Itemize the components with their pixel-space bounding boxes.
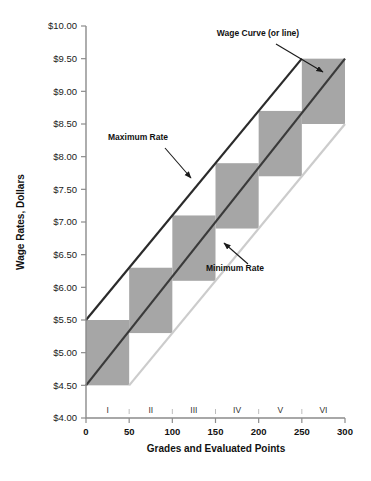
x-tick-label: 100 [164,426,180,437]
x-tick-label: 0 [83,426,88,437]
y-tick-label: $6.00 [53,282,77,293]
grade-band-label: VI [319,405,327,415]
x-axis-ticks: 050100150200250300 [83,418,353,437]
rate-lines [86,59,345,386]
x-tick-label: 50 [124,426,135,437]
x-tick-label: 200 [251,426,267,437]
y-tick-label: $9.00 [53,86,77,97]
rate-line [86,59,302,320]
chart-canvas: $4.00$4.50$5.00$5.50$6.00$6.50$7.00$7.50… [0,0,371,481]
grade-band-label: III [190,405,197,415]
x-tick-label: 300 [337,426,353,437]
x-tick-label: 150 [208,426,224,437]
y-axis-ticks: $4.00$4.50$5.00$5.50$6.00$6.50$7.00$7.50… [48,20,86,423]
y-tick-label: $5.50 [53,314,77,325]
rate-line [86,59,345,386]
grade-band-label: V [277,405,283,415]
y-tick-label: $7.00 [53,216,77,227]
x-tick-label: 250 [294,426,310,437]
grade-band-label: II [148,405,153,415]
annotation-label: Wage Curve (or line) [217,28,300,38]
wage-structure-chart: $4.00$4.50$5.00$5.50$6.00$6.50$7.00$7.50… [0,0,371,481]
y-tick-label: $8.50 [53,118,77,129]
annotation-label: Maximum Rate [108,132,168,142]
annotation-arrow [165,148,191,178]
annotation-arrow [276,44,323,72]
annotation-label: Minimum Rate [206,263,264,273]
y-tick-label: $10.00 [48,20,77,31]
y-tick-label: $4.50 [53,380,77,391]
y-tick-label: $6.50 [53,249,77,260]
y-tick-label: $4.00 [53,412,77,423]
grade-band-label: I [106,405,108,415]
y-tick-label: $5.00 [53,347,77,358]
y-tick-label: $9.50 [53,53,77,64]
y-tick-label: $7.50 [53,184,77,195]
y-axis-title: Wage Rates, Dollars [15,174,26,270]
grade-band-label: IV [233,405,241,415]
grade-band-labels: IIIIIIIVVVI [106,405,327,415]
x-axis-title: Grades and Evaluated Points [147,443,286,454]
y-tick-label: $8.00 [53,151,77,162]
